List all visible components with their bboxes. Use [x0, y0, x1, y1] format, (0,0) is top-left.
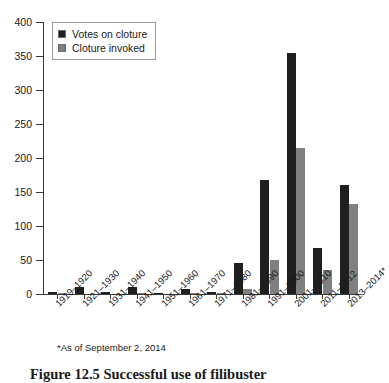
- y-axis-tick: [36, 226, 44, 227]
- y-axis-tick-label: 350: [14, 51, 32, 61]
- y-axis-tick-label: 200: [14, 153, 32, 163]
- legend-swatch-dark: [58, 30, 66, 38]
- legend-item-votes-on-cloture: Votes on cloture: [58, 27, 147, 41]
- bar-votes-on-cloture: [287, 53, 296, 294]
- bar-group: [287, 22, 306, 294]
- y-axis-tick: [36, 260, 44, 261]
- y-axis-tick-label: 150: [14, 187, 32, 197]
- y-axis-tick-label: 100: [14, 221, 32, 231]
- bar-group: [75, 22, 94, 294]
- bar-group: [234, 22, 253, 294]
- bar-group: [313, 22, 332, 294]
- legend-item-cloture-invoked: Cloture invoked: [58, 41, 147, 55]
- y-axis-tick-label: 400: [14, 17, 32, 27]
- bar-group: [181, 22, 200, 294]
- bar-votes-on-cloture: [48, 292, 57, 294]
- y-axis-tick-label: 0: [26, 289, 32, 299]
- bar-group: [128, 22, 147, 294]
- y-axis-tick-label: 250: [14, 119, 32, 129]
- y-axis-tick-label: 50: [20, 255, 32, 265]
- y-axis-tick: [36, 124, 44, 125]
- y-axis-tick: [36, 192, 44, 193]
- legend-label-votes-on-cloture: Votes on cloture: [72, 28, 147, 40]
- y-axis-tick: [36, 294, 44, 295]
- y-axis-tick: [36, 158, 44, 159]
- y-axis-tick: [36, 56, 44, 57]
- chart-footnote: *As of September 2, 2014: [57, 342, 166, 353]
- bar-group: [154, 22, 173, 294]
- legend-swatch-gray: [58, 44, 66, 52]
- plot-area: [44, 22, 362, 294]
- bar-group: [207, 22, 226, 294]
- y-axis-tick: [36, 90, 44, 91]
- chart-legend: Votes on cloture Cloture invoked: [52, 22, 156, 60]
- y-axis-tick: [36, 22, 44, 23]
- bar-group: [340, 22, 359, 294]
- figure-caption: Figure 12.5 Successful use of filibuster: [30, 366, 370, 383]
- legend-label-cloture-invoked: Cloture invoked: [72, 42, 145, 54]
- y-axis-tick-label: 300: [14, 85, 32, 95]
- bar-group: [101, 22, 120, 294]
- bar-group: [48, 22, 67, 294]
- bar-group: [260, 22, 279, 294]
